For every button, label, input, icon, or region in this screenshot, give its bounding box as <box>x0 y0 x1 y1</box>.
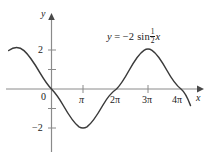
sine-curve <box>9 47 191 128</box>
equation-coefficient: −2 <box>123 31 134 42</box>
y-tick-label-neg2: −2 <box>32 123 43 133</box>
x-tick-label-2pi: 2π <box>110 95 120 105</box>
x-tick-label-4pi: 4π <box>172 95 182 105</box>
equation-variable: x <box>155 31 160 42</box>
equation-equals-sign: = <box>114 31 120 42</box>
y-tick-label-2: 2 <box>38 45 43 55</box>
graph-figure: y x 2 −2 0 π 2π 3π 4π y=−2sin12x <box>0 0 212 164</box>
equation-annotation: y=−2sin12x <box>107 28 160 44</box>
x-tick-label-3pi: 3π <box>142 95 152 105</box>
equation-lhs: y <box>107 31 112 42</box>
y-axis-label: y <box>41 9 45 19</box>
equation-function-name: sin <box>137 31 150 42</box>
x-tick-label-pi: π <box>79 95 84 105</box>
x-axis-label: x <box>196 93 200 103</box>
x-tick-label-0: 0 <box>41 92 46 102</box>
y-axis-arrow-icon <box>48 13 55 20</box>
plot-area <box>0 0 212 164</box>
